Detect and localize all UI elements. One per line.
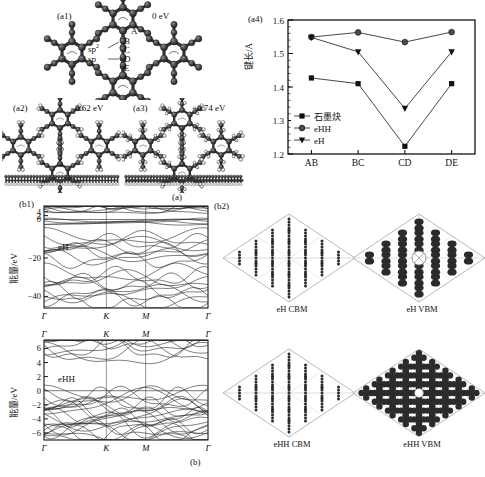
a3-side-view: [125, 175, 244, 186]
svg-text:K: K: [102, 329, 110, 339]
svg-text:1.5: 1.5: [273, 49, 285, 59]
svg-text:石墨炔: 石墨炔: [314, 111, 341, 122]
band-bottom-series-label: eHH: [58, 374, 75, 384]
svg-text:1.3: 1.3: [273, 116, 285, 126]
panel-b1-tag: (b1): [19, 199, 34, 209]
svg-text:M: M: [141, 329, 150, 339]
hybridization-sp-label: sp: [88, 54, 96, 64]
band-structure-ehh-svg: 6420−2−4−6ΓΓKKMMΓΓ: [2, 326, 214, 458]
svg-text:−2: −2: [32, 400, 41, 410]
svg-text:Γ: Γ: [40, 329, 47, 339]
orbital-ehh-cbm: [223, 349, 355, 437]
panel-a4-chart: 石墨炔eHHeH 1.21.31.41.51.6ABBCCDDE (a4) 键长…: [246, 2, 485, 192]
panel-b2-orbitals: (b2) eH CBM eH VBM eHH CBM eHH VBM: [214, 196, 485, 461]
band-top-series-label: eH: [58, 242, 69, 252]
svg-text:−4: −4: [32, 414, 42, 424]
svg-text:Γ: Γ: [204, 329, 211, 339]
svg-text:eHH: eHH: [314, 124, 331, 134]
svg-text:4: 4: [37, 358, 42, 368]
orbital-caption-ehh-vbm: eHH VBM: [372, 439, 472, 449]
svg-text:BC: BC: [352, 158, 365, 168]
svg-text:−40: −40: [28, 291, 41, 301]
svg-text:−20: −20: [28, 253, 41, 263]
svg-text:0: 0: [37, 386, 41, 396]
panel-a4-tag: (a4): [248, 14, 263, 24]
chart-legend: 石墨炔eHHeH: [291, 107, 357, 146]
svg-text:−6: −6: [32, 428, 41, 438]
svg-text:eH: eH: [314, 136, 325, 146]
panel-a3-energy: −0.74 eV: [192, 103, 226, 113]
band-structure-eh-svg: 420−20−40ΓKMΓ: [2, 196, 214, 326]
band-top-y-axis-label: 能量/eV: [7, 253, 20, 284]
svg-text:0: 0: [37, 214, 41, 224]
svg-text:M: M: [141, 311, 150, 321]
bond-length-chart: 石墨炔eHHeH 1.21.31.41.51.6ABBCCDDE: [246, 2, 485, 192]
svg-text:AB: AB: [305, 158, 318, 168]
panel-a3-structure: (a3) −0.74 eV: [122, 98, 246, 193]
orbital-eh-cbm: [223, 214, 355, 302]
panel-a3-tag: (a3): [133, 103, 148, 113]
panel-a2-energy: −0.62 eV: [70, 103, 104, 113]
band-top-curves: [44, 207, 208, 308]
svg-text:1.4: 1.4: [273, 83, 285, 93]
site-label-e: E: [124, 63, 130, 73]
svg-text:K: K: [102, 311, 110, 321]
chart-y-axis-label: 键长/Å: [242, 43, 255, 70]
svg-text:6: 6: [37, 343, 41, 353]
panel-a1-energy: 0 eV: [152, 11, 169, 21]
panel-b2-tag: (b2): [214, 201, 229, 211]
panel-a2-tag: (a2): [13, 103, 28, 113]
band-bottom-curves: [44, 341, 208, 440]
svg-text:K: K: [102, 443, 110, 453]
panel-a2-structure: (a2) −0.62 eV: [2, 98, 122, 193]
a1-molecule-svg: [0, 0, 246, 100]
orbital-caption-eh-cbm: eH CBM: [242, 304, 342, 314]
panel-b1-band-ehh: 6420−2−4−6ΓΓKKMMΓΓ eHH 能量/eV: [2, 326, 214, 458]
orbital-caption-ehh-cbm: eHH CBM: [242, 439, 342, 449]
svg-text:Γ: Γ: [204, 443, 211, 453]
orbital-ehh-vbm: [353, 349, 485, 437]
hybridization-sp2-label: sp2: [88, 43, 99, 54]
orbital-eh-vbm: [353, 214, 485, 302]
panel-a1-tag: (a1): [57, 11, 72, 21]
svg-text:Γ: Γ: [204, 311, 211, 321]
subcaption-b: (b): [190, 457, 201, 467]
svg-text:CD: CD: [398, 158, 411, 168]
site-label-a: A: [131, 26, 138, 36]
panel-a1-structure: (a1) 0 eV A B C D E sp2 sp: [0, 0, 246, 100]
svg-text:1.2: 1.2: [273, 150, 284, 160]
svg-text:DE: DE: [445, 158, 458, 168]
a1-leader-lines: [108, 42, 119, 59]
orbital-plots-svg: [214, 196, 485, 461]
svg-text:M: M: [141, 443, 150, 453]
svg-text:Γ: Γ: [40, 443, 47, 453]
band-bottom-y-axis-label: 能量/eV: [7, 387, 20, 418]
svg-text:2: 2: [37, 372, 41, 382]
svg-text:1.6: 1.6: [273, 16, 285, 26]
a2-side-view: [5, 175, 120, 186]
svg-text:Γ: Γ: [40, 311, 47, 321]
panel-b1-band-eh: 420−20−40ΓKMΓ (b1) eH 能量/eV: [2, 196, 214, 326]
orbital-caption-eh-vbm: eH VBM: [372, 304, 472, 314]
chart-tick-labels: 1.21.31.41.51.6ABBCCDDE: [273, 16, 458, 169]
